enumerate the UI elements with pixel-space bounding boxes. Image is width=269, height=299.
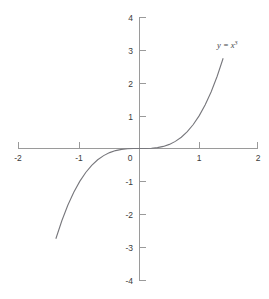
curve-equation-label: y = x3 [216, 40, 238, 50]
plot-canvas: -2 -1 0 1 2 4 3 2 1 -1 -2 -3 -4 y = x3 [0, 0, 269, 299]
y-tick-label--3: -3 [125, 243, 133, 253]
y-tick-label-4: 4 [128, 13, 133, 23]
x-tick-label-1: 1 [197, 153, 202, 163]
y-tick-label--1: -1 [125, 177, 133, 187]
x-axis-ticks [19, 142, 258, 149]
x-tick-label--1: -1 [75, 153, 83, 163]
y-tick-label-1: 1 [128, 112, 133, 122]
curve-equation-exponent: 3 [234, 40, 238, 46]
x-tick-label--2: -2 [14, 153, 22, 163]
y-tick-label-2: 2 [128, 79, 133, 89]
x-tick-label-0: 0 [128, 153, 133, 163]
y-tick-label--2: -2 [125, 210, 133, 220]
curve-equation-base: y = x [216, 40, 235, 50]
x-axis-tick-labels: -2 -1 0 1 2 [14, 153, 260, 163]
cubic-function-graph: -2 -1 0 1 2 4 3 2 1 -1 -2 -3 -4 y = x3 [0, 0, 269, 299]
y-tick-label--4: -4 [125, 276, 133, 286]
x-tick-label-2: 2 [256, 153, 261, 163]
y-tick-label-3: 3 [128, 46, 133, 56]
